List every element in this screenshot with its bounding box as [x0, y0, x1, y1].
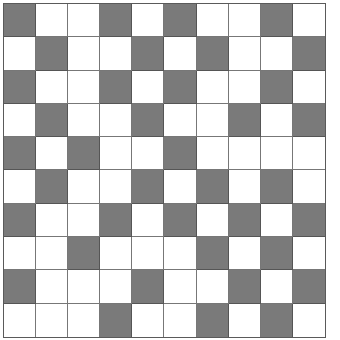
checker-grid: [3, 3, 326, 338]
grid-cell-r1-c8: [261, 37, 293, 70]
grid-cell-r4-c8: [261, 137, 293, 170]
grid-cell-r7-c0: [4, 237, 36, 270]
grid-cell-r9-c5: [164, 304, 196, 337]
grid-cell-r5-c8: [261, 170, 293, 203]
grid-cell-r2-c2: [68, 71, 100, 104]
grid-cell-r2-c8: [261, 71, 293, 104]
grid-cell-r7-c6: [197, 237, 229, 270]
grid-cell-r5-c5: [164, 170, 196, 203]
grid-cell-r1-c0: [4, 37, 36, 70]
grid-cell-r8-c2: [68, 270, 100, 303]
grid-cell-r4-c7: [229, 137, 261, 170]
grid-cell-r5-c7: [229, 170, 261, 203]
grid-cell-r7-c5: [164, 237, 196, 270]
grid-cell-r2-c3: [100, 71, 132, 104]
grid-cell-r8-c8: [261, 270, 293, 303]
grid-cell-r6-c0: [4, 204, 36, 237]
grid-cell-r4-c6: [197, 137, 229, 170]
grid-cell-r2-c6: [197, 71, 229, 104]
grid-cell-r8-c1: [36, 270, 68, 303]
grid-cell-r1-c3: [100, 37, 132, 70]
grid-cell-r6-c4: [132, 204, 164, 237]
grid-cell-r2-c9: [293, 71, 325, 104]
grid-cell-r2-c4: [132, 71, 164, 104]
grid-cell-r3-c7: [229, 104, 261, 137]
grid-cell-r0-c1: [36, 4, 68, 37]
grid-cell-r7-c3: [100, 237, 132, 270]
grid-cell-r6-c6: [197, 204, 229, 237]
grid-cell-r7-c2: [68, 237, 100, 270]
grid-cell-r5-c9: [293, 170, 325, 203]
grid-cell-r3-c4: [132, 104, 164, 137]
grid-cell-r7-c9: [293, 237, 325, 270]
grid-cell-r6-c5: [164, 204, 196, 237]
grid-cell-r6-c9: [293, 204, 325, 237]
grid-cell-r0-c2: [68, 4, 100, 37]
grid-cell-r5-c3: [100, 170, 132, 203]
grid-cell-r1-c6: [197, 37, 229, 70]
grid-cell-r9-c8: [261, 304, 293, 337]
grid-cell-r4-c4: [132, 137, 164, 170]
grid-cell-r8-c6: [197, 270, 229, 303]
grid-cell-r4-c0: [4, 137, 36, 170]
grid-cell-r5-c6: [197, 170, 229, 203]
grid-cell-r1-c7: [229, 37, 261, 70]
grid-cell-r9-c1: [36, 304, 68, 337]
grid-cell-r1-c5: [164, 37, 196, 70]
grid-cell-r3-c2: [68, 104, 100, 137]
grid-cell-r1-c1: [36, 37, 68, 70]
grid-cell-r2-c0: [4, 71, 36, 104]
grid-cell-r2-c7: [229, 71, 261, 104]
grid-cell-r6-c3: [100, 204, 132, 237]
grid-cell-r9-c3: [100, 304, 132, 337]
grid-cell-r0-c6: [197, 4, 229, 37]
grid-cell-r0-c5: [164, 4, 196, 37]
grid-cell-r5-c0: [4, 170, 36, 203]
grid-cell-r4-c9: [293, 137, 325, 170]
grid-cell-r0-c9: [293, 4, 325, 37]
grid-cell-r8-c7: [229, 270, 261, 303]
grid-cell-r0-c7: [229, 4, 261, 37]
grid-cell-r0-c3: [100, 4, 132, 37]
grid-cell-r9-c4: [132, 304, 164, 337]
grid-cell-r2-c5: [164, 71, 196, 104]
grid-cell-r1-c9: [293, 37, 325, 70]
grid-cell-r9-c9: [293, 304, 325, 337]
grid-cell-r3-c9: [293, 104, 325, 137]
grid-cell-r5-c2: [68, 170, 100, 203]
grid-cell-r7-c1: [36, 237, 68, 270]
grid-cell-r7-c8: [261, 237, 293, 270]
grid-cell-r1-c4: [132, 37, 164, 70]
grid-cell-r0-c8: [261, 4, 293, 37]
grid-cell-r9-c7: [229, 304, 261, 337]
grid-cell-r6-c2: [68, 204, 100, 237]
grid-cell-r9-c2: [68, 304, 100, 337]
grid-cell-r0-c4: [132, 4, 164, 37]
grid-cell-r3-c3: [100, 104, 132, 137]
grid-cell-r8-c4: [132, 270, 164, 303]
grid-cell-r6-c1: [36, 204, 68, 237]
grid-cell-r9-c6: [197, 304, 229, 337]
grid-cell-r7-c4: [132, 237, 164, 270]
grid-cell-r8-c5: [164, 270, 196, 303]
grid-cell-r4-c2: [68, 137, 100, 170]
grid-cell-r4-c5: [164, 137, 196, 170]
grid-cell-r5-c1: [36, 170, 68, 203]
grid-cell-r0-c0: [4, 4, 36, 37]
grid-cell-r6-c7: [229, 204, 261, 237]
grid-cell-r6-c8: [261, 204, 293, 237]
grid-cell-r9-c0: [4, 304, 36, 337]
grid-cell-r5-c4: [132, 170, 164, 203]
grid-cell-r8-c0: [4, 270, 36, 303]
grid-cell-r4-c1: [36, 137, 68, 170]
grid-cell-r1-c2: [68, 37, 100, 70]
grid-cell-r4-c3: [100, 137, 132, 170]
grid-cell-r3-c1: [36, 104, 68, 137]
grid-cell-r7-c7: [229, 237, 261, 270]
grid-cell-r3-c0: [4, 104, 36, 137]
grid-cell-r2-c1: [36, 71, 68, 104]
grid-cell-r3-c6: [197, 104, 229, 137]
grid-cell-r8-c3: [100, 270, 132, 303]
grid-cell-r3-c8: [261, 104, 293, 137]
grid-cell-r3-c5: [164, 104, 196, 137]
